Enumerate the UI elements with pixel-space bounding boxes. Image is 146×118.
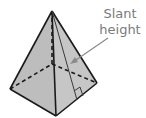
left-face: [10, 11, 56, 116]
label-pointer-line: [73, 38, 108, 62]
label-slant: Slant: [94, 6, 146, 21]
pyramid-diagram: Slant height: [0, 0, 146, 118]
label-height: height: [94, 22, 146, 37]
